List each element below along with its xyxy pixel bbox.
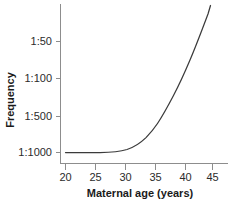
x-axis-title: Maternal age (years)	[87, 187, 194, 199]
data-curve-frequency	[66, 6, 211, 153]
x-tick-label-3: 35	[149, 171, 161, 183]
x-tick-label-2: 30	[119, 171, 131, 183]
y-axis-title: Frequency	[4, 71, 16, 128]
y-tick-label-3: 1:1000	[18, 146, 52, 158]
x-tick-label-0: 20	[59, 171, 71, 183]
chart-container: 1:50 1:100 1:500 1:1000 20 25 30 35 40 4…	[0, 0, 231, 203]
y-tick-label-1: 1:100	[24, 72, 52, 84]
y-tick-label-0: 1:50	[31, 35, 52, 47]
y-tick-label-2: 1:500	[24, 110, 52, 122]
x-tick-label-1: 25	[89, 171, 101, 183]
x-tick-label-5: 45	[206, 171, 218, 183]
chart-plot-area: 1:50 1:100 1:500 1:1000 20 25 30 35 40 4…	[0, 0, 231, 203]
x-tick-label-4: 40	[179, 171, 191, 183]
